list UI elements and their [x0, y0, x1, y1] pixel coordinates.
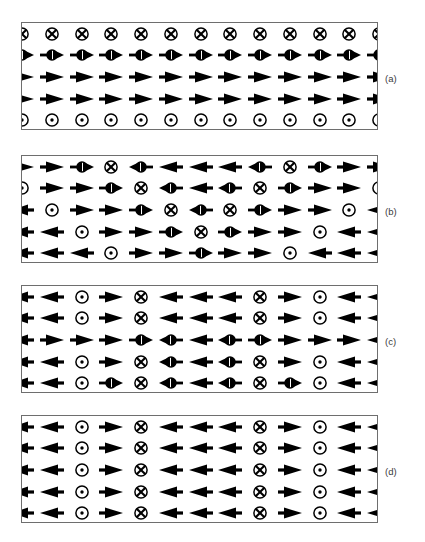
spin-arrow-right-icon — [37, 88, 67, 110]
spin-half-circle-arrow-left-icon — [215, 351, 245, 373]
spin-arrow-left-icon — [334, 307, 364, 329]
spin-arrow-left-icon — [364, 286, 378, 308]
spin-arrow-right-icon — [96, 307, 126, 329]
spin-half-circle-arrow-right-icon — [245, 329, 275, 351]
spin-arrow-left-icon — [37, 437, 67, 459]
spin-dot-in-circle-icon — [96, 242, 126, 263]
spin-arrow-left-icon — [364, 372, 378, 393]
spin-arrow-right-icon — [305, 177, 335, 199]
spin-arrow-right-icon — [67, 329, 97, 351]
spin-arrow-right-icon — [215, 242, 245, 263]
spin-cross-in-circle-icon — [334, 23, 364, 45]
spin-cross-in-circle-icon — [21, 23, 37, 45]
spin-arrow-left-icon — [37, 416, 67, 438]
spin-arrow-left-icon — [364, 242, 378, 263]
spin-half-circle-arrow-right-icon — [186, 242, 216, 263]
spin-arrow-left-icon — [186, 156, 216, 178]
spin-half-circle-arrow-right-icon — [126, 329, 156, 351]
spin-arrow-right-icon — [96, 416, 126, 438]
spin-dot-in-circle-icon — [67, 109, 97, 130]
spin-half-circle-arrow-right-icon — [186, 44, 216, 66]
spin-arrow-left-icon — [67, 242, 97, 263]
spin-dot-in-circle-icon — [305, 286, 335, 308]
spin-arrow-right-icon — [334, 88, 364, 110]
spin-cross-in-circle-icon — [126, 177, 156, 199]
spin-arrow-right-icon — [96, 437, 126, 459]
spin-arrow-right-icon — [67, 199, 97, 221]
spin-arrow-right-icon — [186, 88, 216, 110]
spin-dot-in-circle-icon — [275, 109, 305, 130]
spin-arrow-right-icon — [126, 221, 156, 243]
spin-arrow-left-icon — [37, 307, 67, 329]
spin-arrow-right-icon — [334, 156, 364, 178]
spin-dot-in-circle-icon — [305, 481, 335, 503]
spin-grid — [22, 286, 377, 392]
spin-arrow-left-icon — [186, 437, 216, 459]
spin-arrow-left-icon — [334, 437, 364, 459]
spin-arrow-right-icon — [96, 286, 126, 308]
spin-arrow-right-icon — [334, 66, 364, 88]
spin-cross-in-circle-icon — [275, 156, 305, 178]
spin-cross-in-circle-icon — [126, 502, 156, 523]
spin-cross-in-circle-icon — [275, 23, 305, 45]
spin-arrow-right-icon — [275, 286, 305, 308]
spin-arrow-right-icon — [305, 66, 335, 88]
spin-half-circle-arrow-left-icon — [156, 372, 186, 393]
spin-cross-in-circle-icon — [245, 481, 275, 503]
spin-dot-in-circle-icon — [364, 109, 378, 130]
spin-arrow-right-icon — [96, 199, 126, 221]
spin-arrow-right-icon — [156, 66, 186, 88]
spin-dot-in-circle-icon — [67, 221, 97, 243]
spin-half-circle-arrow-left-icon — [215, 177, 245, 199]
spin-half-circle-arrow-right-icon — [275, 44, 305, 66]
spin-arrow-left-icon — [186, 502, 216, 523]
spin-half-circle-arrow-left-icon — [215, 372, 245, 393]
spin-arrow-left-icon — [334, 372, 364, 393]
spin-arrow-right-icon — [37, 66, 67, 88]
spin-arrow-left-icon — [364, 459, 378, 481]
panel-d — [21, 415, 378, 523]
spin-dot-in-circle-icon — [37, 199, 67, 221]
spin-dot-in-circle-icon — [67, 416, 97, 438]
spin-half-circle-arrow-right-icon — [37, 44, 67, 66]
spin-arrow-left-icon — [334, 351, 364, 373]
spin-cross-in-circle-icon — [245, 459, 275, 481]
spin-dot-in-circle-icon — [156, 109, 186, 130]
spin-half-circle-arrow-right-icon — [334, 44, 364, 66]
spin-arrow-left-icon — [364, 502, 378, 523]
spin-arrow-right-icon — [334, 177, 364, 199]
spin-half-circle-arrow-right-icon — [305, 44, 335, 66]
spin-dot-in-circle-icon — [67, 459, 97, 481]
spin-cross-in-circle-icon — [215, 199, 245, 221]
spin-arrow-right-icon — [275, 221, 305, 243]
spin-dot-in-circle-icon — [67, 481, 97, 503]
spin-half-circle-arrow-right-icon — [67, 44, 97, 66]
spin-cross-in-circle-icon — [245, 437, 275, 459]
spin-cross-in-circle-icon — [364, 23, 378, 45]
spin-arrow-right-icon — [186, 66, 216, 88]
panel-b — [21, 155, 378, 263]
spin-arrow-right-icon — [364, 66, 378, 88]
spin-arrow-right-icon — [156, 88, 186, 110]
spin-arrow-right-icon — [156, 242, 186, 263]
spin-arrow-right-icon — [67, 177, 97, 199]
spin-arrow-left-icon — [21, 351, 37, 373]
spin-dot-in-circle-icon — [67, 351, 97, 373]
spin-arrow-right-icon — [96, 351, 126, 373]
spin-dot-in-circle-icon — [305, 416, 335, 438]
spin-arrow-left-icon — [215, 286, 245, 308]
spin-arrow-left-icon — [21, 329, 37, 351]
spin-arrow-left-icon — [37, 481, 67, 503]
spin-arrow-right-icon — [37, 177, 67, 199]
spin-cross-in-circle-icon — [126, 286, 156, 308]
spin-cross-in-circle-icon — [156, 23, 186, 45]
spin-arrow-right-icon — [275, 307, 305, 329]
spin-arrow-left-icon — [37, 221, 67, 243]
spin-dot-in-circle-icon — [96, 109, 126, 130]
spin-arrow-left-icon — [21, 286, 37, 308]
spin-arrow-left-icon — [215, 156, 245, 178]
spin-dot-in-circle-icon — [126, 109, 156, 130]
panel-label-c: (c) — [385, 336, 396, 347]
spin-arrow-right-icon — [305, 199, 335, 221]
spin-dot-in-circle-icon — [21, 177, 37, 199]
